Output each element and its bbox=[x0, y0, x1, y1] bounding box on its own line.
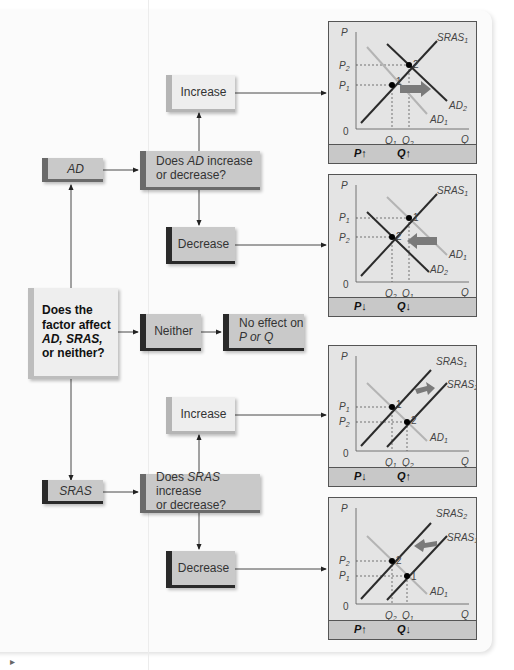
chart-ad-decrease-footer: P↓ Q↓ bbox=[329, 297, 476, 316]
svg-text:2: 2 bbox=[396, 555, 402, 566]
start-line-3: AD, SRAS, bbox=[42, 332, 111, 346]
price-effect: P↓ bbox=[354, 300, 367, 312]
chart-sras-decrease: P Q 0 P2 P1 Q2 Q1 1 2 SRAS2 SRAS1 AD1 P↑… bbox=[328, 497, 477, 640]
svg-text:2: 2 bbox=[396, 231, 402, 242]
svg-text:P2: P2 bbox=[339, 232, 350, 244]
svg-text:1: 1 bbox=[396, 76, 402, 87]
svg-text:1: 1 bbox=[396, 399, 402, 410]
sras-decrease-label: Decrease bbox=[178, 561, 229, 575]
svg-text:Q: Q bbox=[461, 456, 469, 467]
svg-text:2: 2 bbox=[413, 59, 419, 70]
chart-sras-increase-footer: P↓ Q↑ bbox=[329, 467, 476, 486]
neither-box-label: Neither bbox=[154, 324, 193, 338]
sras-box: SRAS bbox=[42, 480, 103, 504]
svg-text:P: P bbox=[341, 351, 348, 362]
svg-text:P1: P1 bbox=[339, 570, 350, 582]
svg-text:AD2: AD2 bbox=[429, 264, 448, 276]
chart-ad-increase-plot: P Q 0 P2 P1 Q1 Q2 1 2 SRAS1 AD2 AD1 bbox=[329, 22, 476, 146]
sras-question-box: Does SRAS increase or decrease? bbox=[140, 474, 260, 513]
chart-sras-increase: P Q 0 P1 P2 Q1 Q2 1 2 SRAS1 SRAS2 AD1 P↓… bbox=[328, 345, 477, 487]
quantity-effect: Q↓ bbox=[397, 623, 411, 635]
svg-text:P: P bbox=[341, 503, 348, 514]
sras-box-label: SRAS bbox=[59, 484, 92, 498]
svg-text:P1: P1 bbox=[339, 212, 350, 224]
svg-text:P1: P1 bbox=[339, 80, 350, 92]
no-effect-line-1: No effect on bbox=[239, 317, 304, 331]
start-line-2: factor affect bbox=[42, 318, 111, 332]
svg-text:Q: Q bbox=[461, 609, 469, 620]
audio-icon[interactable]: ▸ bbox=[10, 656, 15, 667]
sras-question-pre: Does bbox=[156, 470, 187, 484]
chart-sras-increase-plot: P Q 0 P1 P2 Q1 Q2 1 2 SRAS1 SRAS2 AD1 bbox=[329, 346, 476, 470]
chart-ad-increase: P Q 0 P2 P1 Q1 Q2 1 2 SRAS1 AD2 AD1 P↑ Q… bbox=[328, 21, 477, 164]
sras-decrease-box: Decrease bbox=[166, 551, 235, 588]
svg-text:P1: P1 bbox=[339, 401, 350, 413]
no-effect-box: No effect on P or Q bbox=[223, 314, 304, 351]
sras-increase-box: Increase bbox=[166, 397, 235, 434]
quantity-effect: Q↑ bbox=[397, 470, 411, 482]
ad-increase-label: Increase bbox=[180, 85, 226, 99]
svg-text:SRAS1: SRAS1 bbox=[436, 356, 467, 368]
svg-text:1: 1 bbox=[411, 571, 417, 582]
svg-text:SRAS1: SRAS1 bbox=[447, 532, 476, 544]
svg-text:P2: P2 bbox=[339, 555, 350, 567]
svg-text:AD1: AD1 bbox=[429, 586, 448, 598]
svg-text:0: 0 bbox=[343, 601, 349, 612]
price-effect: P↑ bbox=[354, 623, 367, 635]
sras-question-post: increase bbox=[156, 484, 201, 498]
chart-ad-increase-footer: P↑ Q↑ bbox=[329, 144, 476, 163]
chart-ad-decrease: P Q 0 P1 P2 Q2 Q1 1 2 SRAS1 AD1 AD2 P↓ Q… bbox=[328, 174, 477, 317]
svg-text:0: 0 bbox=[343, 126, 349, 137]
price-effect: P↓ bbox=[354, 470, 367, 482]
price-effect: P↑ bbox=[354, 147, 367, 159]
ad-decrease-box: Decrease bbox=[166, 227, 235, 264]
start-line-4: or neither? bbox=[42, 346, 111, 360]
svg-text:P: P bbox=[341, 180, 348, 191]
chart-sras-decrease-plot: P Q 0 P2 P1 Q2 Q1 1 2 SRAS2 SRAS1 AD1 bbox=[329, 498, 476, 622]
quantity-effect: Q↓ bbox=[397, 300, 411, 312]
svg-text:AD1: AD1 bbox=[448, 249, 467, 261]
ad-question-post: increase bbox=[204, 154, 253, 168]
start-question-box: Does the factor affect AD, SRAS, or neit… bbox=[28, 288, 118, 379]
chart-ad-decrease-plot: P Q 0 P1 P2 Q2 Q1 1 2 SRAS1 AD1 AD2 bbox=[329, 175, 476, 299]
svg-text:AD1: AD1 bbox=[429, 114, 448, 126]
ad-question-box: Does AD increase or decrease? bbox=[140, 151, 260, 190]
ad-question-pre: Does bbox=[156, 154, 187, 168]
no-effect-line-2: P or Q bbox=[239, 331, 304, 345]
svg-text:0: 0 bbox=[343, 448, 349, 459]
svg-text:SRAS2: SRAS2 bbox=[447, 379, 476, 391]
svg-text:P: P bbox=[341, 27, 348, 38]
ad-box: AD bbox=[42, 158, 103, 182]
sras-increase-label: Increase bbox=[180, 407, 226, 421]
chart-sras-decrease-footer: P↑ Q↓ bbox=[329, 620, 476, 639]
svg-text:1: 1 bbox=[413, 212, 419, 223]
svg-text:AD2: AD2 bbox=[448, 100, 467, 112]
svg-text:SRAS2: SRAS2 bbox=[436, 508, 467, 520]
ad-question-line-2: or decrease? bbox=[156, 169, 253, 183]
ad-decrease-label: Decrease bbox=[178, 237, 229, 251]
svg-text:P2: P2 bbox=[339, 416, 350, 428]
ad-box-label: AD bbox=[67, 162, 84, 176]
ad-increase-box: Increase bbox=[166, 75, 235, 112]
neither-box: Neither bbox=[140, 314, 201, 351]
quantity-effect: Q↑ bbox=[397, 147, 411, 159]
sras-question-subject: SRAS bbox=[187, 470, 220, 484]
sras-question-line-2: or decrease? bbox=[156, 499, 260, 513]
svg-text:2: 2 bbox=[411, 415, 417, 426]
svg-text:SRAS1: SRAS1 bbox=[437, 32, 468, 44]
ad-question-subject: AD bbox=[187, 154, 204, 168]
svg-text:AD1: AD1 bbox=[429, 432, 448, 444]
svg-text:P2: P2 bbox=[339, 60, 350, 72]
start-line-1: Does the bbox=[42, 303, 111, 317]
svg-text:SRAS1: SRAS1 bbox=[437, 185, 468, 197]
svg-text:0: 0 bbox=[343, 279, 349, 290]
